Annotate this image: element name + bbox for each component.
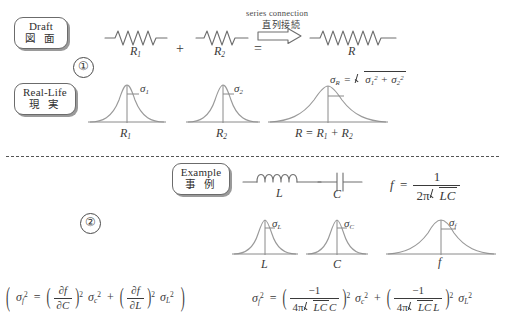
capacitor-label: C: [333, 187, 341, 202]
inductor-label: L: [276, 186, 283, 201]
annotation-series-en: series connection: [246, 8, 308, 18]
label-reallife-jp: 現 実: [21, 99, 69, 111]
resistor-label-r1: R1: [130, 44, 141, 59]
label-example: Example 事 例: [172, 163, 230, 195]
inductor-symbol: [243, 168, 321, 188]
sigma-label-f: σf: [449, 216, 456, 229]
label-example-jp: 事 例: [179, 179, 223, 191]
paren-open-left: (: [6, 280, 10, 315]
axis-label-r2: R2: [216, 126, 227, 141]
distribution-curve-r2: [186, 80, 260, 128]
section-divider: [6, 156, 499, 157]
label-draft-en: Draft: [21, 20, 61, 32]
block-arrow-icon: [258, 28, 302, 44]
axis-label-rtotal: R = R1 + R2: [295, 126, 353, 141]
operator-plus-1: +: [176, 41, 184, 57]
axis-label-l: L: [261, 257, 268, 272]
distribution-curve-r1: [88, 80, 166, 128]
resistor-label-rtotal: R: [348, 44, 355, 59]
figure-canvas: Draft 図 面 ① R1 + R2 = series connection …: [0, 0, 505, 329]
label-draft: Draft 図 面: [14, 17, 68, 49]
axis-label-f: f: [438, 255, 441, 270]
section-number-two: ②: [80, 213, 101, 234]
paren-close-left: ): [181, 280, 185, 315]
resistor-symbol-r1: [105, 26, 167, 46]
sigma-label-1: σ1: [140, 82, 149, 95]
formula-resonant-frequency: f = 1 2πLC: [390, 170, 460, 202]
axis-label-r1: R1: [120, 126, 131, 141]
label-draft-jp: 図 面: [21, 33, 61, 45]
sigma-label-c: σC: [344, 217, 354, 230]
distribution-curve-rtotal: [268, 80, 388, 128]
formula-error-propagation-evaluated: σf2 = ( −1 4πLCC )2 σc2 + ( −1 4πLCL )2 …: [252, 285, 472, 313]
label-reallife: Real-Life 現 実: [14, 83, 76, 115]
label-example-en: Example: [179, 166, 223, 178]
formula-error-propagation-general: ( σf2 = ( ∂f ∂C )2 σc2 + ( ∂f ∂L )2 σL2 …: [6, 285, 185, 311]
resistor-symbol-rtotal: [310, 26, 396, 46]
distribution-curve-l: [232, 216, 298, 260]
axis-label-c: C: [333, 257, 341, 272]
distribution-curve-c: [306, 216, 368, 260]
resistor-symbol-r2: [196, 26, 248, 46]
sigma-label-2: σ2: [234, 82, 243, 95]
label-reallife-en: Real-Life: [21, 86, 69, 98]
formula-sigma-total: σR = σ12 + σ22: [330, 71, 406, 86]
distribution-curve-f: [386, 214, 496, 260]
sigma-label-l: σL: [272, 217, 281, 230]
section-number-one: ①: [73, 57, 94, 78]
resistor-label-r2: R2: [214, 44, 225, 59]
capacitor-symbol: [318, 168, 362, 188]
